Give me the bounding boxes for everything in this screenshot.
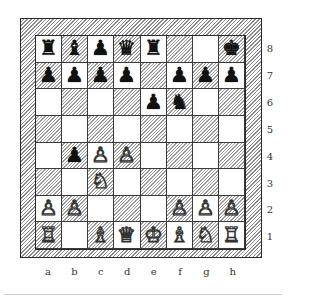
square-g6[interactable]	[193, 89, 219, 116]
square-b7[interactable]: ♟	[62, 63, 88, 90]
square-e5[interactable]	[141, 116, 167, 143]
chess-board[interactable]: ♜♝♟♛♜♚♟♟♟♟♟♟♟♟♞♟♙♙♘♙♙♙♙♙♖♗♕♔♗♘♖	[35, 35, 246, 250]
square-a7[interactable]: ♟	[36, 63, 62, 90]
square-h8[interactable]: ♚	[219, 36, 245, 63]
square-a5[interactable]	[36, 116, 62, 143]
square-h1[interactable]: ♖	[219, 222, 245, 249]
square-g8[interactable]	[193, 36, 219, 63]
black-rook-icon[interactable]: ♜	[39, 38, 58, 59]
square-d7[interactable]: ♟	[114, 63, 140, 90]
square-d6[interactable]	[114, 89, 140, 116]
black-rook-icon[interactable]: ♜	[144, 38, 163, 59]
square-e7[interactable]	[141, 63, 167, 90]
square-b2[interactable]: ♙	[62, 196, 88, 223]
square-b3[interactable]	[62, 169, 88, 196]
square-b8[interactable]: ♝	[62, 36, 88, 63]
black-pawn-icon[interactable]: ♟	[196, 65, 215, 86]
black-pawn-icon[interactable]: ♟	[65, 65, 84, 86]
white-pawn-icon[interactable]: ♙	[39, 198, 58, 219]
black-knight-icon[interactable]: ♞	[170, 92, 189, 113]
square-f2[interactable]: ♙	[167, 196, 193, 223]
square-a6[interactable]	[36, 89, 62, 116]
square-c1[interactable]: ♗	[88, 222, 114, 249]
square-f4[interactable]	[167, 143, 193, 170]
white-king-icon[interactable]: ♔	[144, 225, 163, 246]
square-b6[interactable]	[62, 89, 88, 116]
square-a3[interactable]	[36, 169, 62, 196]
square-g5[interactable]	[193, 116, 219, 143]
square-c4[interactable]: ♙	[88, 143, 114, 170]
square-g2[interactable]: ♙	[193, 196, 219, 223]
black-pawn-icon[interactable]: ♟	[222, 65, 241, 86]
square-a8[interactable]: ♜	[36, 36, 62, 63]
square-f1[interactable]: ♗	[167, 222, 193, 249]
square-h6[interactable]	[219, 89, 245, 116]
square-c6[interactable]	[88, 89, 114, 116]
square-f7[interactable]: ♟	[167, 63, 193, 90]
black-queen-icon[interactable]: ♛	[117, 38, 136, 59]
black-pawn-icon[interactable]: ♟	[39, 65, 58, 86]
square-c2[interactable]	[88, 196, 114, 223]
square-d5[interactable]	[114, 116, 140, 143]
white-bishop-icon[interactable]: ♗	[170, 225, 189, 246]
black-pawn-icon[interactable]: ♟	[144, 92, 163, 113]
white-pawn-icon[interactable]: ♙	[170, 198, 189, 219]
square-f5[interactable]	[167, 116, 193, 143]
square-b4[interactable]: ♟	[62, 143, 88, 170]
white-queen-icon[interactable]: ♕	[117, 225, 136, 246]
square-d8[interactable]: ♛	[114, 36, 140, 63]
square-g1[interactable]: ♘	[193, 222, 219, 249]
square-h2[interactable]: ♙	[219, 196, 245, 223]
black-bishop-icon[interactable]: ♝	[65, 38, 84, 59]
square-e3[interactable]	[141, 169, 167, 196]
file-label-g: g	[193, 266, 219, 277]
black-king-icon[interactable]: ♚	[222, 38, 241, 59]
file-label-b: b	[61, 266, 87, 277]
square-d3[interactable]	[114, 169, 140, 196]
white-rook-icon[interactable]: ♖	[222, 225, 241, 246]
square-e4[interactable]	[141, 143, 167, 170]
black-pawn-icon[interactable]: ♟	[170, 65, 189, 86]
square-h5[interactable]	[219, 116, 245, 143]
black-pawn-icon[interactable]: ♟	[91, 38, 110, 59]
white-bishop-icon[interactable]: ♗	[91, 225, 110, 246]
square-c8[interactable]: ♟	[88, 36, 114, 63]
square-b1[interactable]	[62, 222, 88, 249]
square-c7[interactable]: ♟	[88, 63, 114, 90]
white-knight-icon[interactable]: ♘	[91, 171, 110, 192]
file-label-a: a	[35, 266, 61, 277]
white-pawn-icon[interactable]: ♙	[117, 145, 136, 166]
rank-label-4: 4	[264, 151, 276, 162]
white-pawn-icon[interactable]: ♙	[222, 198, 241, 219]
white-pawn-icon[interactable]: ♙	[65, 198, 84, 219]
square-d4[interactable]: ♙	[114, 143, 140, 170]
square-g7[interactable]: ♟	[193, 63, 219, 90]
square-f3[interactable]	[167, 169, 193, 196]
white-rook-icon[interactable]: ♖	[39, 225, 58, 246]
square-h3[interactable]	[219, 169, 245, 196]
square-h7[interactable]: ♟	[219, 63, 245, 90]
square-f6[interactable]: ♞	[167, 89, 193, 116]
square-g3[interactable]	[193, 169, 219, 196]
square-e8[interactable]: ♜	[141, 36, 167, 63]
white-pawn-icon[interactable]: ♙	[91, 145, 110, 166]
square-d1[interactable]: ♕	[114, 222, 140, 249]
square-c3[interactable]: ♘	[88, 169, 114, 196]
square-e6[interactable]: ♟	[141, 89, 167, 116]
square-g4[interactable]	[193, 143, 219, 170]
square-c5[interactable]	[88, 116, 114, 143]
black-pawn-icon[interactable]: ♟	[91, 65, 110, 86]
square-a4[interactable]	[36, 143, 62, 170]
square-d2[interactable]	[114, 196, 140, 223]
square-e2[interactable]	[141, 196, 167, 223]
square-h4[interactable]	[219, 143, 245, 170]
white-pawn-icon[interactable]: ♙	[196, 198, 215, 219]
white-knight-icon[interactable]: ♘	[196, 225, 215, 246]
square-f8[interactable]	[167, 36, 193, 63]
square-a2[interactable]: ♙	[36, 196, 62, 223]
square-b5[interactable]	[62, 116, 88, 143]
black-pawn-icon[interactable]: ♟	[117, 65, 136, 86]
square-a1[interactable]: ♖	[36, 222, 62, 249]
black-pawn-icon[interactable]: ♟	[65, 145, 84, 166]
square-e1[interactable]: ♔	[141, 222, 167, 249]
